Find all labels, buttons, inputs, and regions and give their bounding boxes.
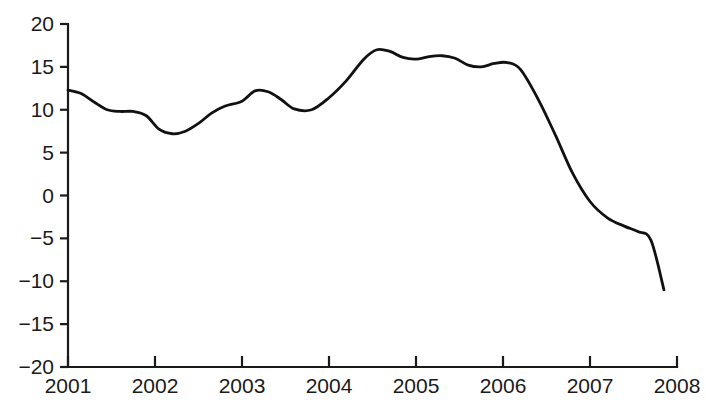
x-axis: 20012002200320042005200620072008 (45, 356, 701, 397)
chart-canvas: 20151050−5−10−15−20 20012002200320042005… (0, 0, 706, 417)
x-tick-label: 2004 (306, 374, 353, 397)
y-tick-label: 0 (42, 184, 54, 207)
x-tick-label: 2002 (132, 374, 179, 397)
data-line-1 (68, 49, 664, 290)
y-tick-label: 10 (31, 98, 54, 121)
y-tick-label: −5 (30, 226, 54, 249)
y-tick-label: 20 (31, 12, 54, 35)
line-chart: 20151050−5−10−15−20 20012002200320042005… (0, 0, 706, 417)
y-tick-label: −15 (18, 312, 54, 335)
x-tick-label: 2008 (654, 374, 701, 397)
y-tick-label: 15 (31, 55, 54, 78)
y-axis: 20151050−5−10−15−20 (18, 12, 68, 378)
x-tick-label: 2006 (480, 374, 527, 397)
x-tick-label: 2001 (45, 374, 92, 397)
x-tick-label: 2005 (393, 374, 440, 397)
data-series-group (68, 49, 664, 290)
x-tick-label: 2003 (219, 374, 266, 397)
y-tick-label: −10 (18, 269, 54, 292)
x-tick-label: 2007 (567, 374, 614, 397)
y-tick-label: 5 (42, 141, 54, 164)
